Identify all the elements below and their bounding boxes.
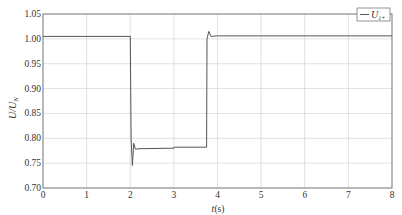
y-axis-label: U/UN xyxy=(7,97,20,119)
x-tick-label: 7 xyxy=(346,190,351,200)
x-tick-label: 4 xyxy=(215,190,220,200)
x-tick-label: 0 xyxy=(41,190,46,200)
y-tick-label: 0.75 xyxy=(24,158,41,168)
y-tick-label: 0.70 xyxy=(24,183,41,193)
legend: U1+ xyxy=(357,8,390,21)
y-tick-label: 0.85 xyxy=(24,108,41,118)
x-tick-label: 8 xyxy=(390,190,395,200)
y-tick-label: 1.00 xyxy=(24,34,41,44)
x-tick-label: 3 xyxy=(172,190,177,200)
x-axis-label: t(s) xyxy=(212,203,225,215)
y-tick-label: 0.95 xyxy=(24,59,41,69)
y-tick-label: 0.90 xyxy=(24,84,41,94)
x-axis-ticks: 012345678 xyxy=(41,190,395,200)
line-chart: 0.700.750.800.850.900.951.001.05 0123456… xyxy=(0,0,402,215)
x-tick-label: 6 xyxy=(302,190,307,200)
x-tick-label: 1 xyxy=(84,190,89,200)
y-tick-label: 0.80 xyxy=(24,133,41,143)
y-axis-ticks: 0.700.750.800.850.900.951.001.05 xyxy=(24,9,41,193)
grid-lines xyxy=(43,14,392,188)
x-tick-label: 5 xyxy=(259,190,264,200)
y-tick-label: 1.05 xyxy=(24,9,41,19)
x-tick-label: 2 xyxy=(128,190,133,200)
